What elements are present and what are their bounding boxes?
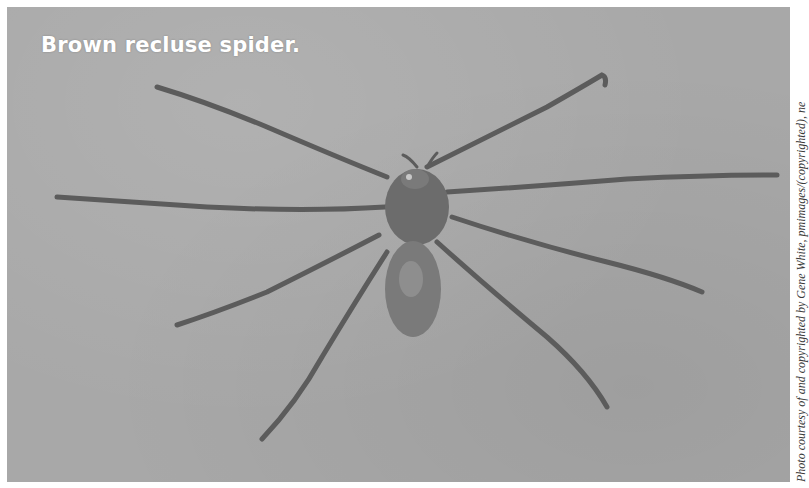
spider-photo: Brown recluse spider. [7,7,790,482]
figure-title: Brown recluse spider. [41,33,300,57]
photo-credit: Photo courtesy of and copyrighted by Gen… [794,2,809,482]
spider-illustration [7,7,790,482]
